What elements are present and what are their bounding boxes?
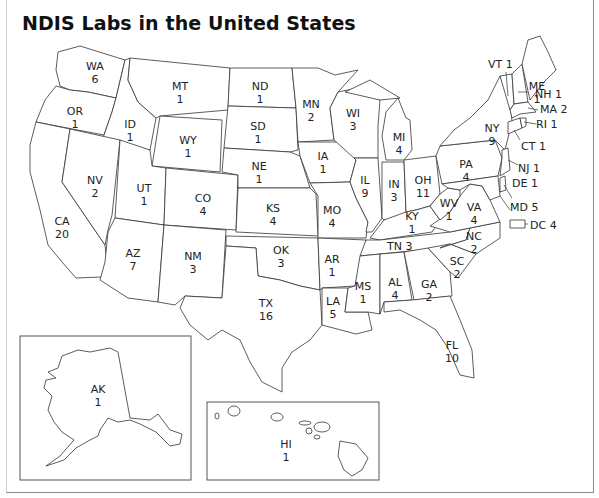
state-ny[interactable] <box>440 76 512 150</box>
label-la: LA5 <box>326 295 340 321</box>
label-nm: NM3 <box>184 250 202 276</box>
label-oh: OH11 <box>415 174 432 200</box>
state-de[interactable] <box>500 176 506 192</box>
label-va: VA4 <box>467 201 481 227</box>
label-ri: RI 1 <box>536 118 557 131</box>
label-sd: SD1 <box>250 120 265 146</box>
label-ma: MA 2 <box>540 103 568 116</box>
label-mo: MO4 <box>323 204 341 230</box>
label-al: AL4 <box>388 276 402 302</box>
label-nv: NV2 <box>87 174 103 200</box>
label-nd: ND1 <box>252 80 269 106</box>
label-ca: CA20 <box>54 215 69 241</box>
label-az: AZ7 <box>125 247 140 273</box>
label-wi: WI3 <box>346 107 360 133</box>
label-nh: NH 1 <box>535 88 562 101</box>
label-or: OR1 <box>67 105 83 131</box>
label-mi: MI4 <box>393 131 406 157</box>
label-co: CO4 <box>195 192 211 218</box>
label-ia: IA1 <box>318 150 329 176</box>
label-wv: WV1 <box>440 197 458 223</box>
label-nj: NJ 1 <box>518 162 540 175</box>
label-wy: WY1 <box>179 134 197 160</box>
label-vt: VT 1 <box>488 58 513 71</box>
leader-de <box>504 185 512 198</box>
label-ar: AR1 <box>324 253 339 279</box>
label-ne: NE1 <box>251 160 266 186</box>
label-wa: WA6 <box>86 60 104 86</box>
label-ut: UT1 <box>137 182 152 208</box>
label-tn: TN 3 <box>387 240 412 253</box>
label-id: ID1 <box>124 118 136 144</box>
state-fl[interactable] <box>384 296 474 378</box>
leader-ct <box>514 130 520 140</box>
label-pa: PA4 <box>459 158 472 184</box>
label-ky: KY1 <box>405 210 419 236</box>
label-mt: MT1 <box>172 80 188 106</box>
label-ks: KS4 <box>266 202 280 228</box>
state-nj[interactable] <box>500 148 510 176</box>
label-nc: NC2 <box>466 230 482 256</box>
label-in: IN3 <box>388 178 399 204</box>
label-ok: OK3 <box>273 244 289 270</box>
label-ms: MS1 <box>355 280 371 306</box>
label-de: DE 1 <box>512 177 538 190</box>
label-ny: NY9 <box>485 122 500 148</box>
state-dc-box[interactable] <box>510 220 525 228</box>
leader-md <box>500 196 510 210</box>
label-dc: DC 4 <box>530 219 557 232</box>
label-md: MD 5 <box>510 201 538 214</box>
label-sc: SC2 <box>450 255 465 281</box>
label-ak: AK1 <box>91 383 106 409</box>
label-tx: TX16 <box>259 297 273 323</box>
label-mn: MN2 <box>302 98 320 124</box>
label-fl: FL10 <box>445 339 459 365</box>
label-ga: GA2 <box>421 278 437 304</box>
label-ct: CT 1 <box>521 140 546 153</box>
label-il: IL9 <box>360 174 369 200</box>
label-hi: HI1 <box>280 438 292 464</box>
